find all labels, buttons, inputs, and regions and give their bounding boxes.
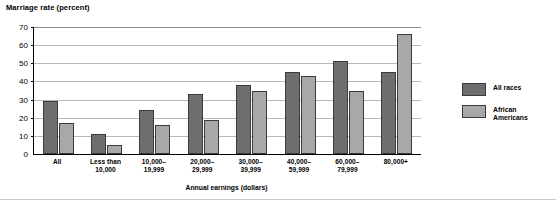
y-tick-label: 10 xyxy=(4,131,28,140)
y-tick-label: 30 xyxy=(4,95,28,104)
legend: All races African Americans xyxy=(462,83,554,131)
y-axis-ticks: 70 60 50 40 30 20 10 0 xyxy=(0,27,28,154)
y-tick-label: 20 xyxy=(4,113,28,122)
bar xyxy=(139,110,154,154)
bar xyxy=(397,34,412,154)
bar xyxy=(333,61,348,154)
x-axis-title: Annual earnings (dollars) xyxy=(33,184,420,191)
legend-swatch-icon xyxy=(462,83,486,96)
legend-label-line1: African xyxy=(493,106,528,114)
bar xyxy=(59,123,74,154)
legend-item-african-americans: African Americans xyxy=(462,105,554,122)
bar xyxy=(252,91,267,155)
bar xyxy=(236,85,251,154)
x-axis-label: 20,000–29,999 xyxy=(178,158,226,184)
bar-group xyxy=(228,27,276,154)
bar-group xyxy=(82,27,130,154)
legend-swatch-icon xyxy=(462,105,486,118)
x-axis-label: Less than10,000 xyxy=(81,158,129,184)
bar xyxy=(188,94,203,154)
bar-group xyxy=(276,27,324,154)
x-axis-label-line1: 80,000+ xyxy=(372,158,420,166)
bottom-divider xyxy=(0,199,556,200)
bar xyxy=(349,91,364,155)
y-tick-label: 70 xyxy=(4,23,28,32)
plot-area xyxy=(33,27,421,155)
bar xyxy=(107,145,122,154)
legend-label-line2: Americans xyxy=(493,114,528,122)
legend-label-line1: All races xyxy=(493,84,521,92)
x-axis-label-line2: 10,000 xyxy=(81,166,129,174)
x-axis-label-line2: 29,999 xyxy=(178,166,226,174)
x-axis-labels: AllLess than10,00010,000–19,99920,000–29… xyxy=(33,158,420,184)
bar-groups xyxy=(34,27,421,154)
x-axis-label-line2: 39,999 xyxy=(227,166,275,174)
bar xyxy=(155,125,170,154)
x-axis-label-line1: 20,000– xyxy=(178,158,226,166)
x-axis-label: 80,000+ xyxy=(372,158,420,184)
y-tick-label: 0 xyxy=(4,150,28,159)
x-axis-label-line1: 30,000– xyxy=(227,158,275,166)
x-axis-label-line1: 10,000– xyxy=(130,158,178,166)
bar-group xyxy=(34,27,82,154)
bar xyxy=(301,76,316,154)
bar xyxy=(204,120,219,154)
y-tick-label: 40 xyxy=(4,77,28,86)
chart-container: Marriage rate (percent) 70 60 50 40 30 2… xyxy=(0,0,556,204)
x-axis-label: 40,000–59,999 xyxy=(275,158,323,184)
y-tick-label: 50 xyxy=(4,59,28,68)
page-title: Marriage rate (percent) xyxy=(6,3,90,12)
x-axis-label-line1: All xyxy=(33,158,81,166)
bar-group xyxy=(373,27,421,154)
bar xyxy=(381,72,396,154)
bar-group xyxy=(179,27,227,154)
x-axis-label: 60,000–79,999 xyxy=(323,158,371,184)
y-tick-label: 60 xyxy=(4,41,28,50)
bar xyxy=(91,134,106,154)
bar-group xyxy=(131,27,179,154)
bar xyxy=(43,101,58,154)
x-axis-label-line1: Less than xyxy=(81,158,129,166)
x-axis-label: All xyxy=(33,158,81,184)
x-axis-label-line2: 19,999 xyxy=(130,166,178,174)
bar-group xyxy=(324,27,372,154)
legend-item-all-races: All races xyxy=(462,83,554,96)
x-axis-label-line1: 60,000– xyxy=(323,158,371,166)
x-axis-label-line2: 59,999 xyxy=(275,166,323,174)
x-axis-label: 30,000–39,999 xyxy=(227,158,275,184)
legend-label: All races xyxy=(493,83,521,92)
bar xyxy=(285,72,300,154)
legend-label: African Americans xyxy=(493,105,528,122)
x-axis-label: 10,000–19,999 xyxy=(130,158,178,184)
x-axis-label-line2: 79,999 xyxy=(323,166,371,174)
x-axis-label-line1: 40,000– xyxy=(275,158,323,166)
